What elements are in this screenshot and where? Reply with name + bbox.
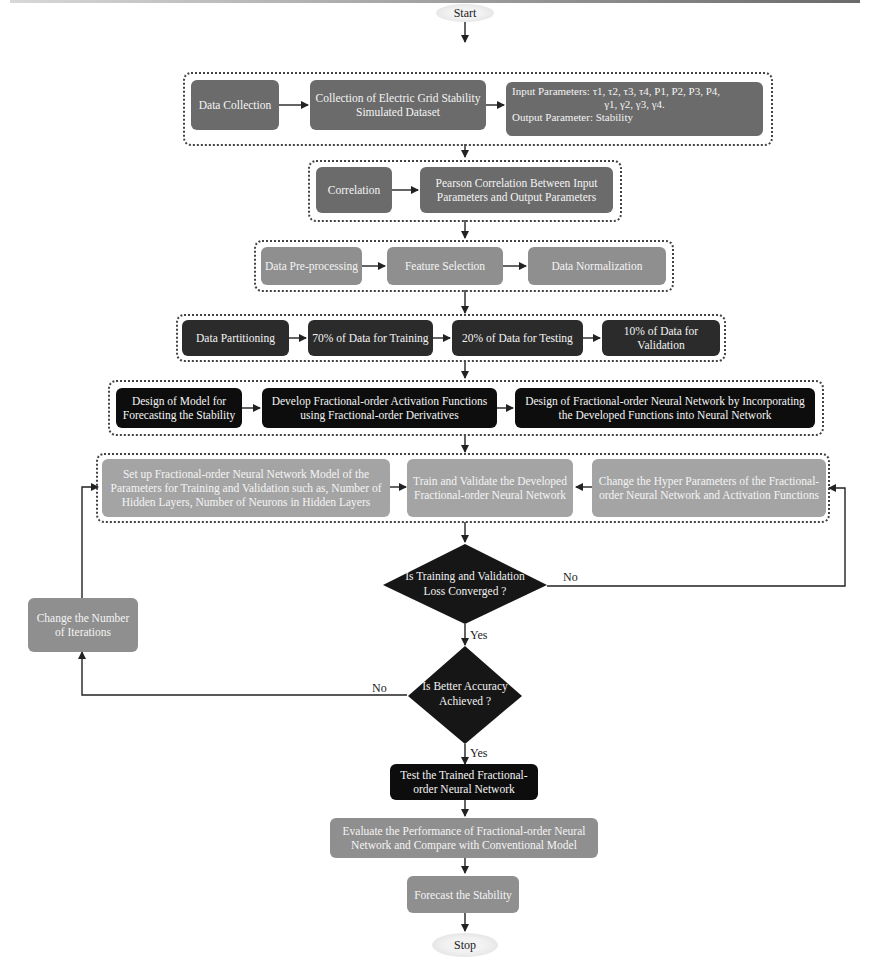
- output-parameter-line: Output Parameter: Stability: [512, 111, 633, 123]
- stop-label: Stop: [454, 938, 476, 953]
- stop-terminal: Stop: [432, 933, 498, 957]
- node-change-iterations: Change the Number of Iterations: [28, 598, 138, 652]
- node-parameters: Input Parameters: τ1, τ2, τ3, τ4, P1, P2…: [506, 82, 763, 136]
- node-pearson-correlation: Pearson Correlation Between Input Parame…: [420, 167, 613, 213]
- edge-label-yes-loss: Yes: [470, 628, 487, 643]
- node-training-split: 70% of Data for Training: [308, 320, 433, 356]
- input-parameters-line1: Input Parameters: τ1, τ2, τ3, τ4, P1, P2…: [512, 85, 757, 98]
- node-change-hyperparameters: Change the Hyper Parameters of the Fract…: [592, 459, 826, 517]
- edge-label-yes-accuracy: Yes: [470, 746, 487, 761]
- decision-loss-converged-label: Is Training and Validation Loss Converge…: [405, 566, 525, 602]
- node-testing-split: 20% of Data for Testing: [452, 320, 583, 356]
- node-train-validate: Train and Validate the Developed Fractio…: [407, 459, 573, 517]
- start-terminal: Start: [436, 4, 494, 22]
- node-feature-selection: Feature Selection: [387, 247, 503, 285]
- node-develop-activation-functions: Develop Fractional-order Activation Func…: [262, 388, 497, 428]
- node-design-model: Design of Model for Forecasting the Stab…: [116, 388, 242, 428]
- start-label: Start: [454, 6, 477, 21]
- node-design-fractional-network: Design of Fractional-order Neural Networ…: [515, 388, 815, 428]
- node-data-partitioning: Data Partitioning: [182, 320, 289, 356]
- edge-label-no-accuracy: No: [372, 681, 387, 696]
- node-correlation: Correlation: [316, 167, 392, 213]
- node-data-preprocessing: Data Pre-processing: [261, 247, 362, 285]
- node-test-trained-network: Test the Trained Fractional-order Neural…: [390, 764, 538, 800]
- node-forecast-stability: Forecast the Stability: [407, 876, 519, 913]
- node-data-normalization: Data Normalization: [528, 247, 666, 285]
- page-top-rule: [10, 0, 860, 3]
- edge-label-no-loss: No: [563, 570, 578, 585]
- node-setup-network-model: Set up Fractional-order Neural Network M…: [102, 459, 390, 517]
- input-parameters-line2: γ1, γ2, γ3, γ4.: [512, 98, 757, 111]
- node-evaluate-performance: Evaluate the Performance of Fractional-o…: [330, 818, 598, 858]
- node-validation-split: 10% of Data for Validation: [602, 320, 720, 356]
- node-data-collection: Data Collection: [191, 80, 279, 130]
- decision-better-accuracy-label: Is Better Accuracy Achieved ?: [420, 676, 510, 712]
- node-electric-grid-dataset: Collection of Electric Grid Stability Si…: [310, 80, 486, 130]
